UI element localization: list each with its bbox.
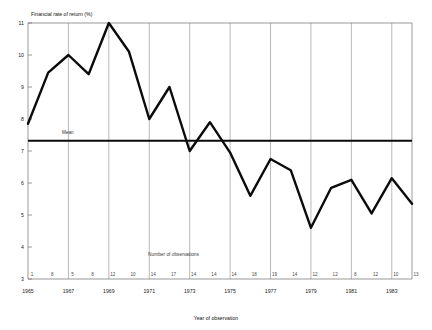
observation-count-1978: 14: [292, 272, 298, 277]
x-tick-label-1975: 1975: [224, 288, 236, 294]
x-axis-title: Year of observation: [194, 315, 239, 321]
observation-count-1970: 10: [130, 272, 136, 277]
observation-count-1967: 5: [71, 272, 74, 277]
x-tick-label-1973: 1973: [184, 288, 196, 294]
chart-background: [0, 0, 432, 330]
observation-count-1972: 17: [171, 272, 177, 277]
y-axis-title: Financial rate of return (%): [31, 11, 93, 17]
x-tick-label-1983: 1983: [386, 288, 398, 294]
x-tick-label-1979: 1979: [305, 288, 317, 294]
y-tick-label-8: 8: [21, 116, 24, 122]
observation-count-1979: 12: [312, 272, 318, 277]
x-tick-label-1977: 1977: [265, 288, 277, 294]
observation-count-1983: 10: [393, 272, 399, 277]
x-tick-label-1971: 1971: [143, 288, 155, 294]
y-tick-label-4: 4: [21, 244, 24, 250]
y-tick-label-5: 5: [21, 212, 24, 218]
observation-count-1968: 8: [91, 272, 94, 277]
x-tick-label-1965: 1965: [22, 288, 34, 294]
observation-count-1982: 12: [373, 272, 379, 277]
observation-count-1977: 19: [272, 272, 278, 277]
observation-count-1965: 1: [31, 272, 34, 277]
observation-count-1969: 12: [110, 272, 116, 277]
x-tick-label-1969: 1969: [103, 288, 115, 294]
observation-count-1974: 14: [211, 272, 217, 277]
y-tick-label-11: 11: [19, 20, 24, 26]
x-tick-label-1981: 1981: [346, 288, 358, 294]
line-chart: 11109876543 1965196719691971197319751977…: [0, 0, 432, 330]
observation-count-1980: 12: [333, 272, 339, 277]
mean-line-label: Mean: [62, 130, 74, 135]
chart-container: 11109876543 1965196719691971197319751977…: [0, 0, 432, 330]
observations-title: Number of observations: [148, 252, 200, 257]
observation-count-1975: 14: [232, 272, 238, 277]
observation-count-1976: 18: [252, 272, 258, 277]
observation-count-1973: 14: [191, 272, 197, 277]
y-tick-label-10: 10: [18, 52, 24, 58]
x-tick-label-1967: 1967: [63, 288, 75, 294]
observation-count-1966: 8: [51, 272, 54, 277]
observation-count-1981: 8: [354, 272, 357, 277]
observation-count-1984: 13: [413, 272, 419, 277]
y-tick-label-7: 7: [21, 148, 24, 154]
y-tick-label-6: 6: [21, 180, 24, 186]
observation-count-1971: 14: [151, 272, 157, 277]
y-tick-label-9: 9: [21, 84, 24, 90]
y-tick-label-3: 3: [21, 276, 24, 282]
